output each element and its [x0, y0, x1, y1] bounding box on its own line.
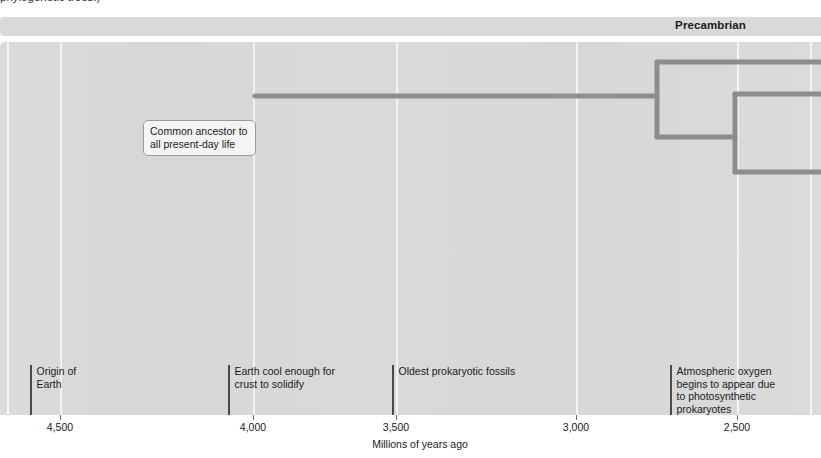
figure-caption-text: phylogenetic trees.) — [0, 0, 100, 4]
event-marker-crust-solidify: Earth cool enough for crust to solidify — [228, 365, 335, 415]
x-axis: 4,5004,0003,5003,0002,500 Millions of ye… — [0, 415, 821, 458]
event-label-origin-of-earth: Origin of Earth — [32, 365, 77, 390]
timeline-figure: phylogenetic trees.) Precambrian Common … — [0, 0, 821, 458]
axis-tick-label-2500: 2,500 — [724, 421, 750, 433]
axis-tick-4500 — [60, 415, 61, 420]
axis-tick-label-4500: 4,500 — [47, 421, 73, 433]
era-banner-label: Precambrian — [0, 19, 821, 31]
figure-caption-clip: phylogenetic trees.) — [0, 0, 300, 9]
axis-tick-3500 — [396, 415, 397, 420]
axis-tick-4000 — [253, 415, 254, 420]
event-marker-atmospheric-oxygen: Atmospheric oxygen begins to appear due … — [670, 365, 775, 415]
event-label-oldest-prokaryotic: Oldest prokaryotic fossils — [394, 365, 516, 378]
era-banner-precambrian: Precambrian — [0, 17, 821, 36]
timeline-panel: Common ancestor to all present-day life … — [0, 42, 821, 415]
phylogenetic-tree — [0, 42, 821, 415]
callout-line-2: all present-day life — [150, 138, 250, 151]
axis-tick-2500 — [737, 415, 738, 420]
axis-tick-label-4000: 4,000 — [240, 421, 266, 433]
axis-tick-label-3500: 3,500 — [383, 421, 409, 433]
event-label-crust-solidify: Earth cool enough for crust to solidify — [230, 365, 335, 390]
event-marker-oldest-prokaryotic: Oldest prokaryotic fossils — [392, 365, 515, 415]
callout-line-1: Common ancestor to — [150, 125, 250, 138]
x-axis-title: Millions of years ago — [372, 438, 468, 450]
axis-tick-3000 — [576, 415, 577, 420]
common-ancestor-callout: Common ancestor to all present-day life — [143, 120, 256, 156]
event-label-atmospheric-oxygen: Atmospheric oxygen begins to appear due … — [672, 365, 776, 415]
event-marker-origin-of-earth: Origin of Earth — [30, 365, 76, 415]
axis-tick-label-3000: 3,000 — [563, 421, 589, 433]
